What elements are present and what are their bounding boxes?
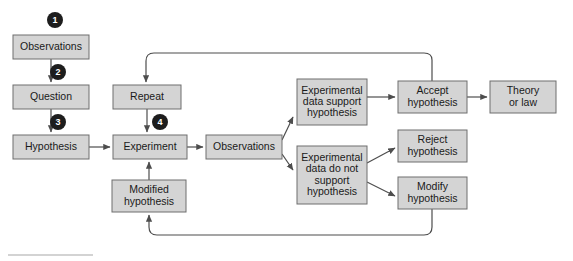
connector-not-support-to-modify — [367, 182, 395, 196]
node-data-support[interactable]: Experimentaldata supporthypothesis — [297, 79, 367, 125]
node-label-hypothesis: Hypothesis — [25, 140, 77, 152]
connector-observations-to-not-support — [282, 154, 293, 170]
node-experiment[interactable]: Experiment — [113, 135, 187, 159]
node-question[interactable]: Question — [13, 85, 89, 109]
node-label-observations-2: Observations — [213, 140, 275, 152]
node-label-question: Question — [30, 90, 72, 102]
node-label-experiment: Experiment — [123, 140, 176, 152]
connector-modify-loop-to-modified — [149, 209, 432, 235]
connector-not-support-to-reject — [367, 148, 395, 163]
node-label-modified-hypothesis: Modifiedhypothesis — [124, 183, 174, 206]
flowchart-figure: ObservationsQuestionHypothesisRepeatExpe… — [0, 0, 573, 261]
node-observations-2[interactable]: Observations — [206, 135, 282, 159]
step-badge-4: 4 — [152, 114, 168, 130]
step-badge-number-4: 4 — [157, 117, 162, 127]
step-badge-number-2: 2 — [55, 67, 60, 77]
nodes-layer: ObservationsQuestionHypothesisRepeatExpe… — [13, 35, 556, 212]
node-theory-or-law[interactable]: Theoryor law — [490, 81, 556, 113]
node-data-not-support[interactable]: Experimentaldata do notsupporthypothesis — [297, 146, 367, 204]
step-badge-number-3: 3 — [55, 117, 60, 127]
connector-accept-loop-to-repeat — [146, 53, 432, 82]
node-hypothesis[interactable]: Hypothesis — [13, 135, 89, 159]
step-badge-1: 1 — [47, 12, 63, 28]
node-label-data-support: Experimentaldata supporthypothesis — [301, 84, 362, 118]
node-observations-1[interactable]: Observations — [13, 35, 89, 59]
node-accept-hypothesis[interactable]: Accepthypothesis — [398, 81, 467, 113]
node-label-data-not-support: Experimentaldata do notsupporthypothesis — [301, 151, 362, 197]
badges-layer: 1234 — [47, 12, 168, 130]
node-repeat[interactable]: Repeat — [113, 85, 181, 109]
step-badge-3: 3 — [50, 114, 66, 130]
node-label-repeat: Repeat — [130, 90, 164, 102]
node-label-theory-or-law: Theoryor law — [507, 84, 540, 107]
node-label-observations-1: Observations — [20, 40, 82, 52]
node-reject-hypothesis[interactable]: Rejecthypothesis — [398, 130, 467, 162]
node-modify-hypothesis[interactable]: Modifyhypothesis — [398, 177, 467, 209]
node-modified-hypothesis[interactable]: Modifiedhypothesis — [112, 180, 186, 212]
step-badge-number-1: 1 — [52, 15, 57, 25]
connector-observations-to-support — [282, 117, 293, 140]
step-badge-2: 2 — [50, 64, 66, 80]
flowchart-svg: ObservationsQuestionHypothesisRepeatExpe… — [0, 0, 573, 261]
